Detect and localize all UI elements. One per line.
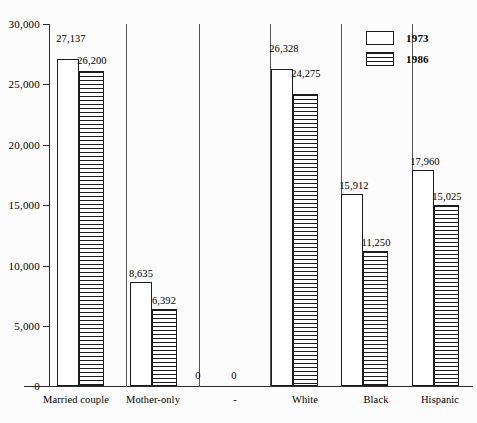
legend-item-1973[interactable]: 1973	[366, 30, 466, 46]
bar-value-1973-black: 15,912	[329, 180, 379, 191]
y-tick-label-5000: 5,000	[0, 321, 40, 332]
bar-value-1973-married-couple: 27,137	[45, 33, 97, 44]
bar-value-1986-married-couple: 26,200	[66, 55, 118, 66]
y-tick-label-20000: 20,000	[0, 140, 40, 151]
bar-1973-white[interactable]	[271, 69, 293, 386]
legend-swatch-1973-icon	[366, 31, 394, 45]
category-label-mother-only: Mother-only	[112, 394, 194, 406]
legend-label-1973: 1973	[406, 33, 429, 44]
legend-swatch-1986-icon	[366, 52, 394, 66]
bar-value-1986-dash: 0	[221, 370, 247, 381]
chart-legend: 1973 1986	[366, 30, 466, 72]
bar-1986-black[interactable]	[363, 251, 388, 386]
legend-item-1986[interactable]: 1986	[366, 51, 466, 67]
bar-1986-mother-only[interactable]	[152, 309, 177, 386]
bar-1986-white[interactable]	[293, 94, 318, 386]
bar-value-1973-mother-only: 8,635	[118, 268, 164, 279]
bar-chart: 30,000 25,000 20,000 15,000 10,000 5,000…	[0, 0, 477, 423]
category-label-hispanic: Hispanic	[403, 394, 477, 406]
y-tick-label-10000: 10,000	[0, 261, 40, 272]
x-axis-line	[24, 386, 473, 387]
bar-1973-black[interactable]	[341, 194, 363, 386]
y-tick-label-25000: 25,000	[0, 79, 40, 90]
bar-value-1986-black: 11,250	[351, 237, 401, 248]
bar-1986-married-couple[interactable]	[79, 71, 104, 386]
bar-value-1986-mother-only: 6,392	[141, 295, 187, 306]
bar-value-1986-hispanic: 15,025	[422, 191, 472, 202]
bar-1973-hispanic[interactable]	[412, 170, 434, 386]
bar-1973-married-couple[interactable]	[57, 59, 79, 386]
bar-value-1973-hispanic: 17,960	[400, 156, 450, 167]
plot-area: 27,137 26,200 8,635 6,392 0 0 26,328 24,…	[49, 25, 473, 386]
y-tick-label-15000: 15,000	[0, 200, 40, 211]
bar-value-1986-white: 24,275	[281, 68, 331, 79]
category-label-white: White	[265, 394, 345, 406]
bar-value-1973-white: 26,328	[259, 43, 309, 54]
bar-value-1973-dash: 0	[185, 370, 211, 381]
bar-1986-hispanic[interactable]	[434, 205, 459, 386]
y-tick-label-30000: 30,000	[0, 19, 40, 30]
legend-label-1986: 1986	[406, 54, 429, 65]
category-label-married-couple: Married couple	[31, 394, 121, 406]
